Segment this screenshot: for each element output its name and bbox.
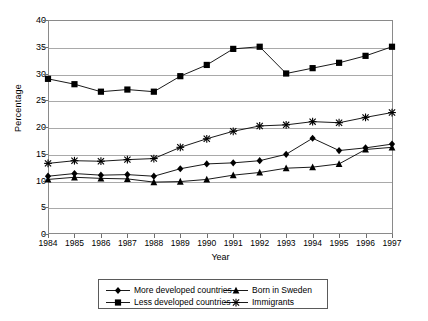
x-tick-mark <box>392 234 393 238</box>
x-tick-mark <box>154 234 155 238</box>
x-tick-mark <box>127 234 128 238</box>
series-cross-x <box>44 109 396 168</box>
x-tick-mark <box>366 234 367 238</box>
x-tick-mark <box>286 234 287 238</box>
x-axis-title: Year <box>48 252 393 262</box>
legend-label: Born in Sweden <box>249 285 312 295</box>
chart-legend: More developed countriesLess developed c… <box>98 279 328 309</box>
x-tick-mark <box>48 234 49 238</box>
x-tick-mark <box>339 234 340 238</box>
x-tick-mark <box>313 234 314 238</box>
square-marker-icon <box>105 295 131 308</box>
x-tick-label: 1997 <box>372 238 412 248</box>
series-layer <box>48 20 393 234</box>
x-tick-mark <box>260 234 261 238</box>
x-tick-mark <box>207 234 208 238</box>
legend-item[interactable]: Immigrants <box>223 295 294 308</box>
series-square <box>45 44 395 95</box>
legend-label: Less developed countries <box>131 297 230 307</box>
cross-x-marker-icon <box>223 295 249 308</box>
legend-label: More developed countries <box>131 285 232 295</box>
line-chart-figure: Percentage 05101520253035401984198519861… <box>0 0 428 321</box>
series-diamond <box>45 135 395 180</box>
legend-label: Immigrants <box>249 297 294 307</box>
x-tick-mark <box>101 234 102 238</box>
x-tick-mark <box>74 234 75 238</box>
x-tick-mark <box>180 234 181 238</box>
x-tick-mark <box>233 234 234 238</box>
legend-item[interactable]: Less developed countries <box>105 295 230 308</box>
